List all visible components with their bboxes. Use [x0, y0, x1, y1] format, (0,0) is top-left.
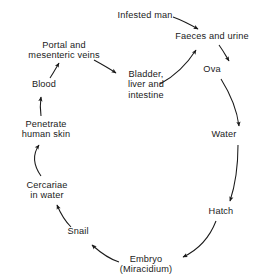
- node-faeces-and-urine: Faeces and urine: [175, 31, 248, 41]
- edge-infested-man-to-faeces: [173, 17, 198, 29]
- node-infested-man: Infested man: [118, 10, 173, 20]
- life-cycle-diagram: Infested man Faeces and urine Ova Water …: [0, 0, 268, 279]
- node-penetrate-skin: Penetrate human skin: [22, 119, 70, 140]
- node-ova: Ova: [203, 64, 220, 74]
- node-portal-veins: Portal and mesenteric veins: [28, 40, 99, 61]
- node-snail: Snail: [67, 226, 88, 236]
- edge-hatch-to-embryo: [183, 221, 216, 257]
- edge-penetrate-to-blood: [40, 97, 41, 116]
- node-blood: Blood: [32, 79, 56, 89]
- edge-bladder-to-faeces: [160, 50, 196, 84]
- edge-faeces-to-ova: [219, 45, 229, 61]
- edge-blood-to-portal: [50, 63, 59, 78]
- node-embryo: Embryo (Miracidium): [120, 254, 172, 275]
- edge-portal-to-bladder: [94, 60, 116, 73]
- node-hatch: Hatch: [209, 206, 234, 216]
- edge-ova-to-water: [221, 79, 239, 126]
- edge-embryo-to-snail: [92, 245, 119, 262]
- edge-water-to-hatch: [230, 145, 238, 201]
- edge-cercariae-to-penetrate: [35, 145, 41, 176]
- node-bladder: Bladder, liver and intestine: [128, 69, 164, 100]
- node-cercariae: Cercariae in water: [26, 180, 67, 201]
- node-water: Water: [212, 129, 237, 139]
- edge-snail-to-cercariae: [57, 205, 71, 227]
